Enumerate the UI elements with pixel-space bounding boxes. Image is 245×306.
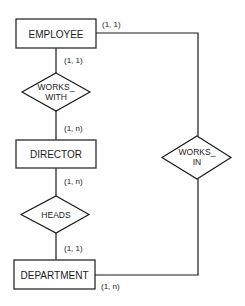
entity-director-label: DIRECTOR (30, 149, 82, 160)
connector-works-in-department (95, 179, 198, 275)
cardinality-department-works-in: (1, n) (101, 282, 120, 291)
entity-director: DIRECTOR (16, 140, 96, 168)
relationship-works-with: WORKS_ WITH (22, 73, 90, 111)
relationship-heads-label: HEADS (41, 210, 71, 220)
cardinality-director-heads: (1, n) (64, 177, 83, 186)
relationship-works-in-label-line2: IN (193, 157, 202, 167)
cardinality-department-heads: (1, 1) (64, 244, 83, 253)
connector-employee-works-in (96, 33, 198, 136)
cardinality-director-works-with: (1, n) (64, 124, 83, 133)
entity-department: DEPARTMENT (14, 260, 95, 289)
er-diagram: EMPLOYEE WORKS_ WITH DIRECTOR HEADS DEPA… (0, 0, 245, 306)
entity-department-label: DEPARTMENT (21, 270, 89, 281)
cardinality-employee-works-in: (1, 1) (102, 20, 121, 29)
relationship-works-in: WORKS_ IN (162, 136, 231, 179)
cardinality-employee-works-with: (1, 1) (64, 56, 83, 65)
entity-employee-label: EMPLOYEE (28, 29, 83, 40)
relationship-heads: HEADS (21, 196, 89, 233)
entity-employee: EMPLOYEE (16, 19, 96, 48)
relationship-works-with-label-line2: WITH (45, 92, 67, 102)
relationship-works-with-label-line1: WORKS_ (38, 82, 75, 92)
relationship-works-in-label-line1: WORKS_ (179, 147, 216, 157)
